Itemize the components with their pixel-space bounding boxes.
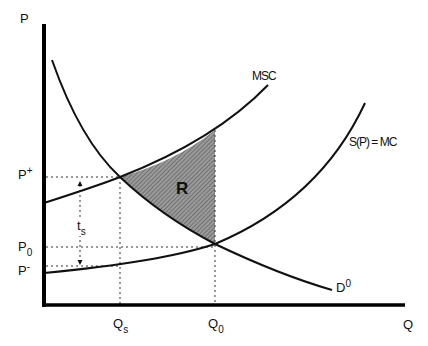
pplus-sup: + [27, 165, 33, 176]
arrow-up-icon [78, 181, 83, 186]
supply-label: S(P) = MC [349, 136, 396, 148]
demand-label-sup: 0 [345, 278, 351, 289]
diagram: P Q MSC S(P) = MC D0 P+ P0 P- Qs Q0 R ts [0, 0, 428, 346]
q0-base: Q [208, 316, 218, 331]
demand-label-base: D [336, 280, 345, 295]
qs-base: Q [113, 316, 123, 331]
demand-label: D0 [336, 279, 351, 294]
p0-label: P0 [18, 240, 32, 257]
tax-sub: s [81, 226, 86, 237]
y-axis-label: P [20, 12, 29, 25]
q0-sub: 0 [218, 324, 224, 335]
arrow-down-icon [78, 260, 83, 265]
diagram-canvas [0, 0, 428, 346]
pminus-sup: - [27, 261, 30, 272]
p0-sub: 0 [27, 247, 33, 258]
pminus-base: P [18, 263, 27, 278]
region-label: R [176, 180, 188, 197]
q0-label: Q0 [208, 317, 224, 334]
qs-label: Qs [113, 317, 128, 334]
tax-label: ts [76, 219, 87, 236]
x-axis-label: Q [403, 318, 413, 331]
p0-base: P [18, 239, 27, 254]
msc-label: MSC [252, 70, 276, 82]
pplus-base: P [18, 167, 27, 182]
region-r [120, 130, 215, 244]
pplus-label: P+ [18, 166, 33, 181]
pminus-label: P- [18, 262, 30, 277]
qs-sub: s [123, 324, 128, 335]
